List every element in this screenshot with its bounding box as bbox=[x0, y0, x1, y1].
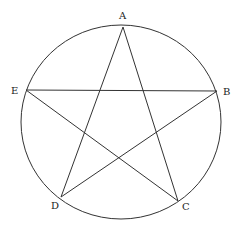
pentagram-lines bbox=[26, 27, 217, 201]
pentagram-diagram: A B C D E bbox=[0, 0, 239, 227]
segment-ac bbox=[123, 27, 178, 201]
diagram-canvas bbox=[0, 0, 239, 227]
segment-ec bbox=[26, 90, 178, 201]
circumscribed-circle bbox=[21, 25, 221, 219]
label-e: E bbox=[11, 86, 18, 96]
label-b: B bbox=[223, 87, 230, 97]
label-c: C bbox=[182, 202, 190, 212]
segment-ad bbox=[61, 27, 123, 197]
segment-db bbox=[61, 91, 217, 197]
label-a: A bbox=[119, 11, 126, 21]
label-d: D bbox=[51, 201, 59, 211]
segment-eb bbox=[26, 90, 217, 91]
